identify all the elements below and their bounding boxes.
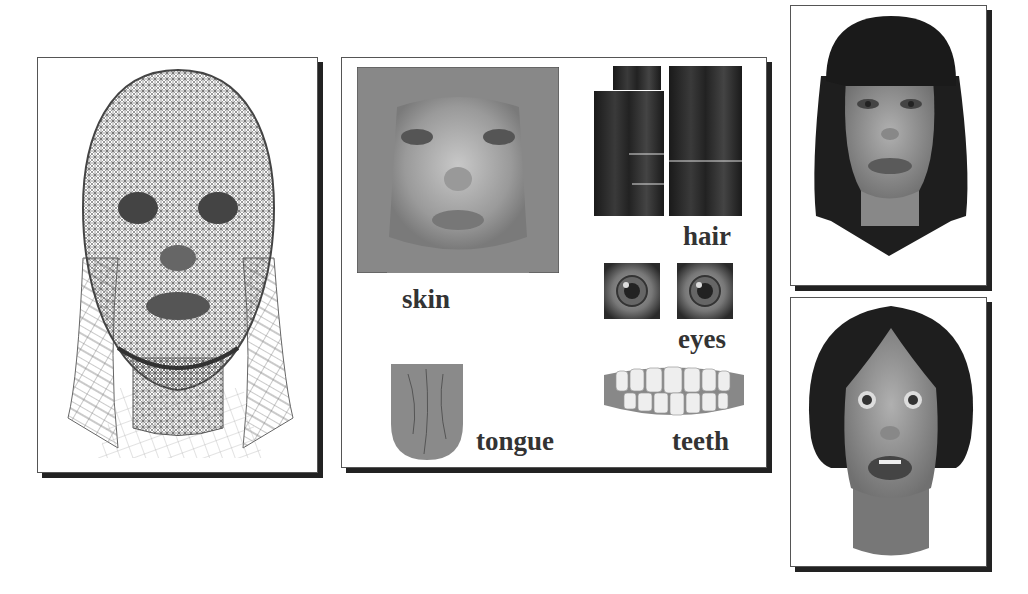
- textures-panel: skin hair: [341, 57, 767, 468]
- wireframe-panel: [37, 57, 318, 473]
- teeth-texture-image: [604, 365, 744, 420]
- tongue-label: tongue: [476, 428, 554, 455]
- skin-label: skin: [402, 286, 450, 313]
- rendered-face-neutral-image: [791, 6, 987, 286]
- eye-texture-left: [604, 263, 660, 319]
- wireframe-head-image: [38, 58, 318, 473]
- tongue-texture-image: [388, 364, 466, 460]
- eye-texture-right: [677, 263, 733, 319]
- teeth-label: teeth: [672, 428, 729, 455]
- rendered-face-surprised-image: [791, 298, 987, 567]
- render-surprised-panel: [790, 297, 987, 567]
- eyes-label: eyes: [678, 326, 726, 353]
- skin-texture-image: [357, 67, 559, 273]
- render-neutral-panel: [790, 5, 987, 286]
- hair-label: hair: [683, 223, 731, 250]
- hair-texture-image: [594, 66, 742, 216]
